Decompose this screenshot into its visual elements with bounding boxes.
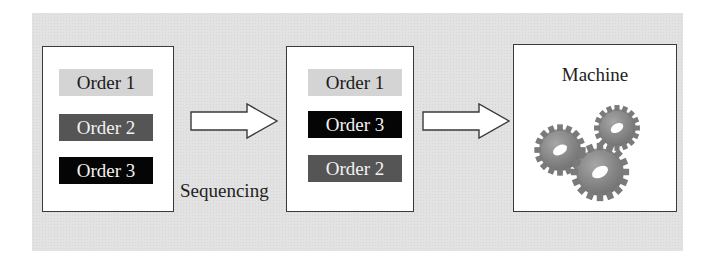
sequencing-label: Sequencing xyxy=(180,180,269,202)
sequenced-order-1: Order 1 xyxy=(308,69,402,96)
arrow-right-icon xyxy=(422,103,512,139)
input-order-1: Order 1 xyxy=(59,69,153,96)
gears-icon xyxy=(520,95,670,210)
input-order-2: Order 2 xyxy=(59,114,153,141)
sequenced-order-2: Order 3 xyxy=(308,111,402,138)
input-order-3: Order 3 xyxy=(59,157,153,184)
arrow-right-icon xyxy=(190,103,280,139)
machine-label: Machine xyxy=(513,64,677,86)
sequenced-order-3: Order 2 xyxy=(308,155,402,182)
